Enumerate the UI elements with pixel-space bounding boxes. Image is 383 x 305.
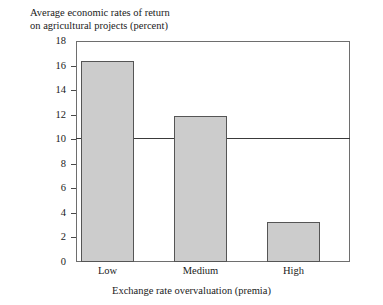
y-axis-tick-label: 12: [56, 108, 67, 121]
x-axis: Low Medium High: [76, 264, 350, 280]
y-axis-tick-label: 2: [61, 230, 66, 243]
chart-figure: Average economic rates of return on agri…: [0, 0, 383, 305]
y-axis-tick-label: 6: [61, 181, 66, 194]
y-axis-tick-label: 10: [56, 132, 67, 145]
bar-medium: [174, 116, 227, 262]
bar-high: [267, 222, 320, 262]
bars-layer: [76, 41, 350, 262]
x-axis-tick-label-low: Low: [78, 264, 138, 278]
y-axis-tick-label: 14: [56, 83, 67, 96]
y-axis-tick-label: 4: [61, 206, 66, 219]
y-axis-tick-label: 8: [61, 157, 66, 170]
x-axis-title: Exchange rate overvaluation (premia): [0, 284, 383, 298]
y-axis-tick-label: 16: [56, 59, 67, 72]
x-axis-tick-label-medium: Medium: [171, 264, 231, 278]
y-axis-tick-label: 0: [61, 255, 66, 268]
bar-low: [81, 61, 134, 262]
y-axis: 18 16 14 12 10 8 6 4: [0, 41, 76, 262]
x-axis-tick-label-high: High: [264, 264, 324, 278]
chart-title: Average economic rates of return on agri…: [30, 7, 260, 32]
y-axis-tick-label: 18: [56, 34, 67, 47]
